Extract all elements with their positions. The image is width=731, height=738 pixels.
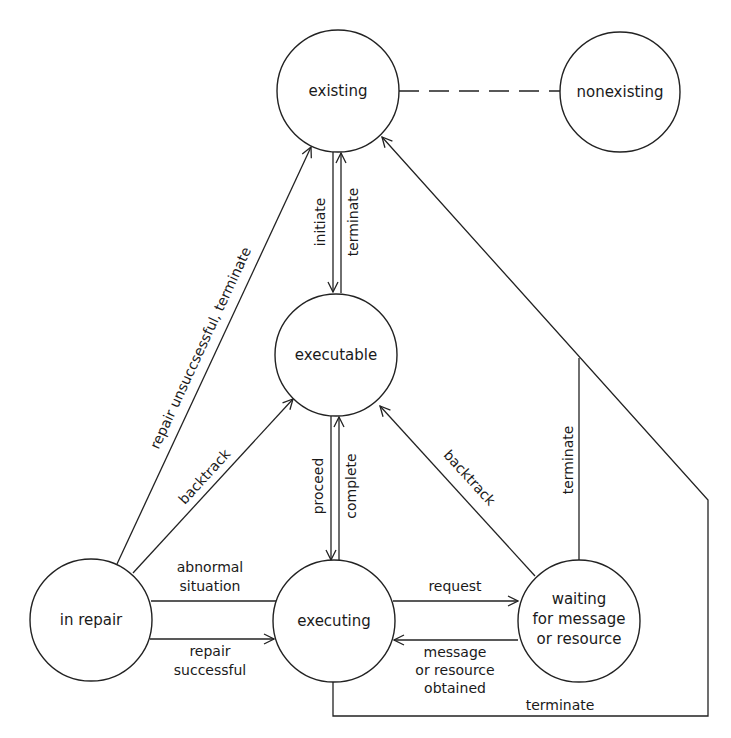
label-terminate-executable: terminate [345, 188, 361, 257]
label-repair-unsuccessful: repair unsuccsessful, terminate [147, 244, 254, 451]
node-waiting-label-1: waiting [552, 590, 607, 608]
edge-backtrack-from-waiting [380, 406, 535, 576]
node-executing[interactable]: executing [273, 560, 395, 682]
label-repair-successful-2: successful [174, 662, 246, 678]
label-request: request [428, 578, 482, 594]
node-nonexisting-label: nonexisting [576, 83, 663, 101]
label-message-3: obtained [424, 680, 486, 696]
node-executable[interactable]: executable [275, 294, 397, 416]
label-message-2: or resource [415, 662, 494, 678]
node-in-repair[interactable]: in repair [30, 559, 152, 681]
label-terminate-executing: terminate [526, 697, 595, 713]
label-proceed: proceed [310, 458, 326, 515]
node-executing-label: executing [297, 612, 370, 630]
label-abnormal-1: abnormal [177, 559, 244, 575]
label-backtrack-repair: backtrack [175, 445, 234, 507]
label-message-1: message [424, 644, 487, 660]
label-terminate-waiting: terminate [560, 426, 576, 495]
node-existing-label: existing [309, 82, 368, 100]
node-in-repair-label: in repair [60, 611, 123, 629]
node-nonexisting[interactable]: nonexisting [560, 32, 680, 152]
label-complete: complete [343, 453, 359, 518]
label-abnormal-2: situation [180, 578, 241, 594]
node-executable-label: executable [295, 346, 377, 364]
node-existing[interactable]: existing [277, 30, 399, 152]
node-waiting-label-3: or resource [537, 630, 622, 648]
label-initiate: initiate [312, 198, 328, 247]
node-waiting-label-2: for message [533, 610, 626, 628]
label-repair-successful-1: repair [189, 643, 230, 659]
label-backtrack-waiting: backtrack [441, 447, 500, 509]
state-diagram: existing nonexisting executable in repai… [0, 0, 731, 738]
node-waiting[interactable]: waiting for message or resource [518, 560, 640, 682]
